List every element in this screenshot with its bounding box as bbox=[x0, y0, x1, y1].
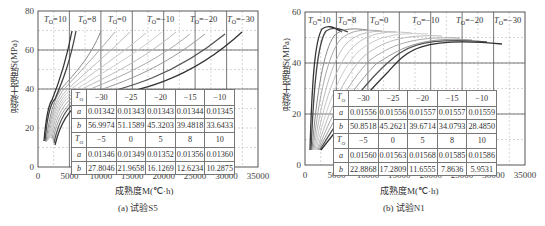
y-tick: 40 bbox=[25, 84, 35, 94]
y-tick: 60 bbox=[25, 45, 35, 55]
table-row: TO−30−25−20−15−10 bbox=[334, 91, 497, 107]
table-row: a0.015560.015560.015570.015570.01559 bbox=[334, 106, 497, 120]
x-tick: 35000 bbox=[247, 171, 270, 181]
y-tick: 40 bbox=[292, 58, 302, 68]
y-axis-label: 混凝土强度S(MPa) bbox=[279, 38, 292, 111]
y-tick: 20 bbox=[292, 109, 302, 119]
y-tick: 80 bbox=[25, 6, 35, 16]
chart-caption: (b) 试验N1 bbox=[383, 201, 425, 214]
table-row: TO−30−25−20−15−10 bbox=[72, 90, 235, 106]
table-row: a0.015600.015630.015680.015850.01586 bbox=[334, 149, 497, 163]
chart-caption: (a) 试验S5 bbox=[118, 201, 158, 214]
x-axis-label: 成熟度M(℃·h) bbox=[380, 184, 439, 197]
x-tick: 35000 bbox=[514, 170, 537, 180]
table-row: b22.886817.280911.65557.86365.9531 bbox=[334, 162, 497, 176]
annotation-t0-0: TO=0 bbox=[108, 14, 126, 25]
annotation-t0-8: TO=8 bbox=[338, 15, 356, 26]
x-tick: 0 bbox=[303, 170, 308, 180]
annotation-t0-minus30: TO=−30 bbox=[494, 15, 521, 26]
table-row: a0.013420.013430.013430.013440.01345 bbox=[72, 105, 235, 119]
y-tick: 60 bbox=[292, 7, 302, 17]
table-row: TO−505810 bbox=[334, 133, 497, 149]
x-tick: 0 bbox=[36, 171, 41, 181]
table-row: b50.851845.262139.671434.079328.4850 bbox=[334, 120, 497, 134]
y-tick: 20 bbox=[25, 123, 35, 133]
annotation-t0-8: TO=8 bbox=[78, 14, 96, 25]
x-axis-label: 成熟度M(℃·h) bbox=[115, 184, 174, 197]
y-axis-label: 混凝土强度S(MPa) bbox=[7, 40, 20, 113]
chart-panel-n1: TO=10 TO=8 TO=0 TO=−10 TO=−20 TO=−30 0 2… bbox=[272, 0, 545, 226]
chart-panel-s5: TO=10 TO=8 TO=0 TO=−10 TO=−20 TO=−30 0 2… bbox=[0, 0, 272, 226]
annotation-t0-minus10: TO=−10 bbox=[412, 15, 439, 26]
annotation-t0-0: TO=0 bbox=[370, 15, 388, 26]
annotation-t0-10: TO=10 bbox=[44, 14, 66, 25]
annotation-t0-10: TO=10 bbox=[308, 15, 330, 26]
annotation-t0-minus30: TO=−30 bbox=[227, 14, 254, 25]
table-row: a0.013460.013490.013520.013560.01360 bbox=[72, 148, 235, 162]
annotation-t0-minus20: TO=−20 bbox=[456, 15, 483, 26]
table-row: b27.804621.965816.126912.623410.2875 bbox=[72, 161, 235, 175]
table-row: TO−505810 bbox=[72, 132, 235, 148]
annotation-t0-minus20: TO=−20 bbox=[190, 14, 217, 25]
table-row: b56.997451.158945.320339.481833.6433 bbox=[72, 119, 235, 133]
parameter-table: TO−30−25−20−15−10 a0.015560.015560.01557… bbox=[333, 90, 497, 176]
y-tick: 0 bbox=[30, 162, 35, 172]
parameter-table: TO−30−25−20−15−10 a0.013420.013430.01343… bbox=[71, 89, 235, 175]
y-tick: 0 bbox=[297, 160, 302, 170]
annotation-t0-minus10: TO=−10 bbox=[147, 14, 174, 25]
